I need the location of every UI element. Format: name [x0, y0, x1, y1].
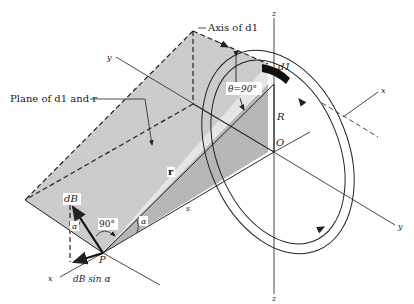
current-arrow-bottom [318, 227, 324, 230]
z-bottom-label: z [271, 294, 277, 303]
alpha-label-right: α [141, 217, 147, 226]
x-left-label: x [48, 274, 53, 283]
dB-sin-alpha-label: dB sin α [73, 274, 110, 284]
r-label: r [168, 166, 174, 177]
y-right-label: y [397, 222, 403, 231]
z-top-label: z [271, 9, 277, 18]
plane-label: Plane of d1 and r [10, 93, 97, 104]
right-angle-label: 90° [99, 219, 115, 229]
biot-savart-diagram: Axis of d1 Plane of d1 and r z z y y x x… [0, 0, 414, 304]
current-arrow-top [299, 99, 303, 104]
R-label: R [276, 111, 285, 122]
alpha-label-left: α [72, 222, 78, 231]
theta-label: θ=90° [228, 84, 257, 94]
dB-label: dB [64, 193, 78, 204]
y-left-label: y [106, 53, 112, 62]
P-label: P [98, 254, 106, 265]
s-label: s [186, 204, 190, 213]
x-right-label: x [381, 86, 386, 95]
x-axis-right [343, 92, 378, 117]
O-label: O [276, 137, 284, 148]
dl-label: d1 [278, 61, 291, 72]
axis-of-dl-label: Axis of d1 [207, 22, 258, 33]
